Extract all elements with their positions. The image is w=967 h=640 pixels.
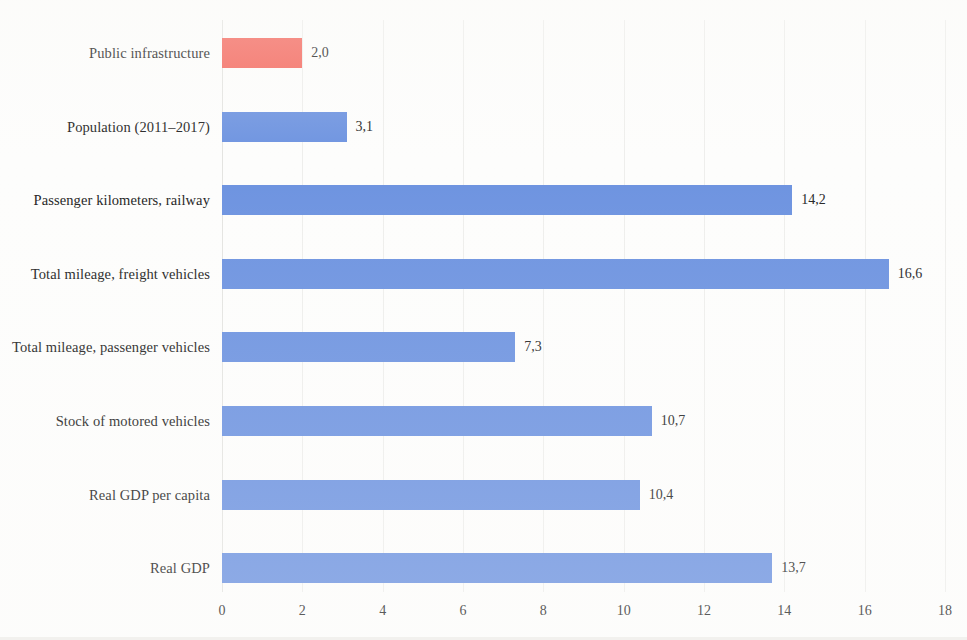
bar-value-label: 13,7 [781, 561, 806, 575]
bar-value-label: 7,3 [524, 340, 542, 354]
plot-area: Public infrastructure2,0Population (2011… [222, 20, 945, 592]
x-tick-label: 16 [858, 604, 872, 618]
bar-row: Total mileage, freight vehicles16,6 [222, 259, 945, 289]
bar[interactable] [222, 553, 772, 583]
category-label: Public infrastructure [89, 46, 210, 61]
category-label: Population (2011–2017) [67, 119, 210, 134]
bar-chart: Public infrastructure2,0Population (2011… [0, 0, 967, 640]
x-tick-label: 6 [460, 604, 467, 618]
x-tick-label: 12 [697, 604, 711, 618]
bar-row: Total mileage, passenger vehicles7,3 [222, 332, 945, 362]
bar[interactable] [222, 38, 302, 68]
bar-value-label: 3,1 [356, 120, 374, 134]
bar[interactable] [222, 332, 515, 362]
bar-value-label: 10,4 [649, 488, 674, 502]
x-tick-label: 10 [617, 604, 631, 618]
category-label: Real GDP per capita [89, 487, 210, 502]
x-tick-label: 2 [299, 604, 306, 618]
x-tick-label: 4 [379, 604, 386, 618]
bar-row: Population (2011–2017)3,1 [222, 112, 945, 142]
bar-value-label: 16,6 [898, 267, 923, 281]
x-tick-label: 14 [777, 604, 791, 618]
bar-value-label: 2,0 [311, 46, 329, 60]
bar[interactable] [222, 259, 889, 289]
bar-row: Real GDP per capita10,4 [222, 480, 945, 510]
bar[interactable] [222, 185, 792, 215]
bar-row: Passenger kilometers, railway14,2 [222, 185, 945, 215]
gridline-18 [945, 20, 946, 592]
bar[interactable] [222, 406, 652, 436]
bar[interactable] [222, 480, 640, 510]
category-label: Real GDP [150, 561, 210, 576]
bar-row: Public infrastructure2,0 [222, 38, 945, 68]
bar[interactable] [222, 112, 347, 142]
bar-row: Real GDP13,7 [222, 553, 945, 583]
bar-value-label: 10,7 [661, 414, 686, 428]
bar-value-label: 14,2 [801, 193, 826, 207]
x-tick-label: 18 [938, 604, 952, 618]
bar-row: Stock of motored vehicles10,7 [222, 406, 945, 436]
category-label: Passenger kilometers, railway [34, 193, 210, 208]
category-label: Stock of motored vehicles [56, 414, 210, 429]
x-tick-label: 0 [219, 604, 226, 618]
x-axis: 024681012141618 [222, 592, 945, 632]
x-tick-label: 8 [540, 604, 547, 618]
category-label: Total mileage, freight vehicles [31, 267, 210, 282]
category-label: Total mileage, passenger vehicles [12, 340, 210, 355]
